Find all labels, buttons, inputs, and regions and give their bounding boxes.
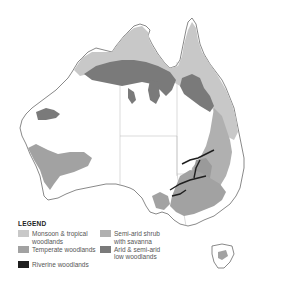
legend-item-temperate: Temperate woodlands <box>18 246 100 262</box>
legend-label: Semi-arid shrub with savanna <box>114 230 160 246</box>
legend-item-semi-arid-shrub: Semi-arid shrub with savanna <box>100 230 200 246</box>
legend-item-monsoon-tropical: Monsoon & tropical woodlands <box>18 230 100 246</box>
legend-label: Arid & semi-arid low woodlands <box>114 246 160 262</box>
legend-item-arid-semi-arid: Arid & semi-arid low woodlands <box>100 246 200 262</box>
swatch-riverine <box>18 261 29 268</box>
legend: LEGEND Monsoon & tropical woodlands Semi… <box>18 220 278 269</box>
swatch-temperate <box>18 246 29 253</box>
swatch-monsoon-tropical <box>18 230 29 237</box>
legend-title: LEGEND <box>18 220 278 227</box>
swatch-semi-arid-shrub <box>100 230 111 237</box>
legend-label: Riverine woodlands <box>32 261 89 269</box>
legend-label: Monsoon & tropical woodlands <box>32 230 88 246</box>
legend-label: Temperate woodlands <box>32 246 96 254</box>
legend-item-riverine: Riverine woodlands <box>18 261 100 269</box>
swatch-arid-semi-arid <box>100 246 111 253</box>
